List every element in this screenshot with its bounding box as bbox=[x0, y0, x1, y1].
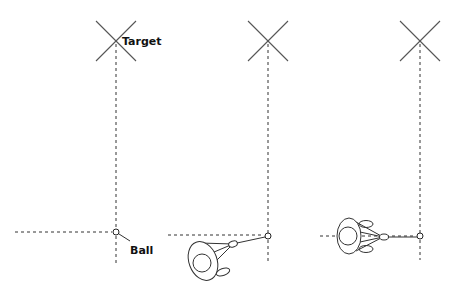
ball-leader-line bbox=[119, 234, 130, 241]
ball-icon bbox=[265, 233, 271, 239]
panel-3 bbox=[320, 21, 440, 260]
target-cross-icon bbox=[248, 21, 288, 61]
target-cross-icon bbox=[400, 21, 440, 61]
target-label: Target bbox=[122, 35, 162, 48]
ball-label: Ball bbox=[130, 244, 153, 257]
ball-icon bbox=[113, 229, 119, 235]
panel-2 bbox=[168, 21, 288, 285]
golf-alignment-diagram: Target Ball bbox=[0, 0, 462, 291]
panel-1: Target Ball bbox=[15, 21, 162, 263]
ball-icon bbox=[417, 233, 423, 239]
golfer-figure-icon bbox=[183, 237, 265, 285]
